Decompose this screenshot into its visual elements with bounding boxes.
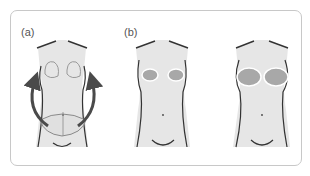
- torso-c: [233, 40, 290, 147]
- torso-b: [134, 40, 190, 147]
- torso-illustrations: [0, 0, 310, 176]
- torso-a: [32, 40, 94, 147]
